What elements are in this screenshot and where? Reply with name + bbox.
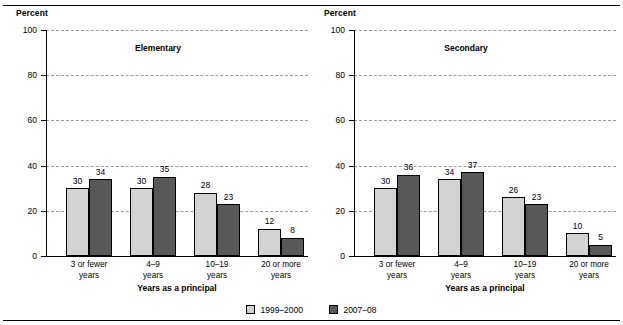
bar	[66, 188, 89, 256]
legend-label-1999-2000: 1999–2000	[260, 305, 303, 315]
bar-value-label: 34	[438, 168, 461, 177]
bar-value-label: 30	[66, 177, 89, 186]
bar	[130, 188, 153, 256]
category-label: 20 or moreyears	[546, 260, 623, 281]
bar	[217, 204, 240, 256]
y-tick-label: 60	[8, 116, 37, 125]
legend-item-2007-08: 2007–08	[329, 305, 376, 315]
y-tick-label: 100	[8, 26, 37, 35]
bar-value-label: 35	[153, 165, 176, 174]
category-label: 20 or moreyears	[238, 260, 324, 281]
y-tick-mark	[349, 256, 355, 257]
x-axis-title: Years as a principal	[46, 283, 308, 293]
y-tick-label: 80	[316, 71, 345, 80]
bar-group: 3034	[66, 30, 112, 256]
bar-value-label: 28	[194, 181, 217, 190]
chart-legend: 1999–2000 2007–08	[0, 304, 623, 315]
y-tick-mark	[349, 211, 355, 212]
y-tick-label: 0	[8, 252, 37, 261]
bar-value-label: 37	[461, 161, 484, 170]
bar	[258, 229, 281, 256]
y-tick-mark	[41, 30, 47, 31]
bar-value-label: 5	[589, 233, 612, 242]
y-tick-label: 40	[316, 162, 345, 171]
bottom-rule	[3, 320, 620, 321]
y-tick-label: 20	[316, 207, 345, 216]
bar-value-label: 30	[130, 177, 153, 186]
top-rule	[3, 5, 620, 6]
bar	[153, 177, 176, 256]
bar-value-label: 23	[525, 193, 548, 202]
y-tick-mark	[41, 75, 47, 76]
chart-figure: Percent Elementary Years as a principal …	[0, 0, 623, 325]
bar	[438, 179, 461, 256]
bar-value-label: 23	[217, 193, 240, 202]
y-axis-title: Percent	[324, 8, 356, 18]
y-tick-mark	[349, 75, 355, 76]
bar	[397, 175, 420, 256]
y-tick-mark	[41, 256, 47, 257]
bar	[589, 245, 612, 256]
bar	[194, 193, 217, 256]
x-axis-line	[46, 256, 308, 257]
category-label-line2: years	[238, 271, 324, 282]
bar-group: 3035	[130, 30, 176, 256]
bar	[281, 238, 304, 256]
bar-group: 105	[566, 30, 612, 256]
bar-value-label: 34	[89, 168, 112, 177]
bar	[566, 233, 589, 256]
bar-value-label: 36	[397, 163, 420, 172]
bar	[461, 172, 484, 256]
x-axis-line	[354, 256, 616, 257]
y-tick-label: 80	[8, 71, 37, 80]
legend-item-1999-2000: 1999–2000	[246, 305, 303, 315]
panel-elementary: Percent Elementary Years as a principal …	[8, 8, 308, 293]
category-label-line1: 20 or more	[238, 260, 324, 271]
bar	[502, 197, 525, 256]
y-tick-mark	[41, 166, 47, 167]
bar-value-label: 12	[258, 217, 281, 226]
y-tick-mark	[349, 120, 355, 121]
y-tick-label: 40	[8, 162, 37, 171]
panel-secondary: Percent Secondary Years as a principal 1…	[316, 8, 616, 293]
y-axis-title: Percent	[16, 8, 48, 18]
y-tick-mark	[349, 30, 355, 31]
bar-group: 3437	[438, 30, 484, 256]
bar-value-label: 8	[281, 226, 304, 235]
legend-swatch-1999-2000	[246, 305, 255, 314]
bar-value-label: 26	[502, 186, 525, 195]
bar-group: 3036	[374, 30, 420, 256]
legend-swatch-2007-08	[329, 305, 338, 314]
bar-value-label: 10	[566, 222, 589, 231]
category-label-line1: 20 or more	[546, 260, 623, 271]
legend-label-2007-08: 2007–08	[343, 305, 376, 315]
y-tick-mark	[41, 211, 47, 212]
bar-group: 128	[258, 30, 304, 256]
bar-group: 2623	[502, 30, 548, 256]
x-axis-title: Years as a principal	[354, 283, 616, 293]
bar-value-label: 30	[374, 177, 397, 186]
category-label-line2: years	[546, 271, 623, 282]
bar	[374, 188, 397, 256]
bar	[89, 179, 112, 256]
y-tick-label: 0	[316, 252, 345, 261]
y-tick-mark	[41, 120, 47, 121]
y-tick-label: 100	[316, 26, 345, 35]
bar	[525, 204, 548, 256]
y-tick-label: 60	[316, 116, 345, 125]
y-tick-label: 20	[8, 207, 37, 216]
y-tick-mark	[349, 166, 355, 167]
bar-group: 2823	[194, 30, 240, 256]
